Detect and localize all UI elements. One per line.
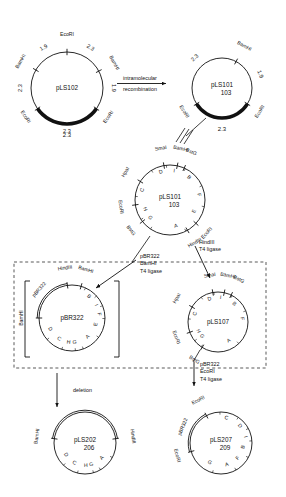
fragment-letter: A (173, 222, 178, 229)
arc-size-label: 1.9 (39, 43, 49, 52)
restriction-site-label: BstG (233, 274, 246, 284)
plasmid-pLS202-206: BamHIHindIIIDCHGApLS202206 (32, 410, 137, 474)
fragment-letter: I (220, 294, 222, 300)
fragment-boundary-tick (184, 169, 185, 171)
step-pbr322-ecori-ligation-line: EcoRI (200, 368, 215, 374)
fragment-letter: B (186, 174, 193, 181)
restriction-site-label: BamHI (14, 53, 27, 69)
restriction-site-tick (186, 228, 189, 234)
plasmid-name: pLS102 (56, 84, 78, 92)
plasmid-subname: 209 (220, 444, 231, 451)
fragment-boundary-tick (93, 470, 94, 472)
fragment-letter: F (234, 455, 241, 461)
fragment-boundary-tick (95, 296, 97, 298)
step-arrow-bamhi-ligation (96, 260, 136, 288)
restriction-site-tick (235, 59, 238, 65)
step-hindiii-ligation: HindIIIT4 ligase (199, 239, 221, 252)
plasmid-subname: 103 (169, 201, 180, 208)
fragment-boundary-tick (151, 170, 152, 172)
restriction-site-label: EcoRI (253, 104, 265, 119)
fragment-letter: D (47, 326, 54, 332)
vector-backbone-arc (188, 414, 205, 452)
fragment-boundary-tick (82, 347, 83, 349)
fragment-letter: G (199, 333, 206, 340)
plasmid-pLS102: 2.3EcoRIBamHIEcoRIEcoRIBamHI1.92.32.31.9… (14, 31, 121, 138)
restriction-site-tick (140, 220, 145, 224)
fragment-letter: I (243, 435, 249, 438)
step-hindiii-ligation-line: HindIII (199, 239, 215, 245)
plasmid-name: pLS101 (211, 81, 233, 89)
restriction-site-label: BamHI (32, 428, 40, 444)
arc-size-label: 1.9 (256, 69, 264, 78)
restriction-site-label: EcoRI (102, 109, 115, 124)
restriction-site-label: BamHI (78, 264, 95, 274)
fragment-letter: B (231, 300, 238, 307)
fragment-letter: G (207, 458, 214, 465)
plasmid-pLS207-209: pBR322EcoRIEcoRICDIBFAGpLS207209 (173, 394, 252, 474)
plasmid-construction-figure: 2.3EcoRIBamHIEcoRIEcoRIBamHI1.92.32.31.9… (0, 0, 286, 497)
fragment-letter: G (72, 339, 77, 345)
equivalence-marker (176, 128, 193, 144)
step-pbr322-bamhi-ligation: pBR322BamHIT4 ligase (140, 253, 162, 274)
fragment-boundary-tick (246, 456, 248, 457)
restriction-site-tick (189, 305, 195, 308)
restriction-site-label: HindIII (57, 264, 72, 272)
fragment-letter: A (225, 336, 231, 343)
restriction-site-label: BamHI (236, 39, 253, 52)
fragment-letter: C (138, 187, 145, 193)
plasmid-name: pLS107 (207, 318, 229, 326)
restriction-site-tick (212, 289, 213, 295)
arc-size-label: 2.3 (17, 84, 23, 92)
restriction-site-tick (163, 162, 164, 168)
arc-size-label: 2.3 (190, 53, 200, 63)
fragment-letter: D (63, 451, 70, 458)
step-intramolecular-recombination-bottom-line: recombination (123, 86, 157, 92)
vector-backbone-label: pBR322 (176, 417, 189, 436)
fragment-boundary-tick (195, 339, 197, 341)
homology-arc-size: 2.3 (218, 126, 227, 132)
figure-canvas: 2.3EcoRIBamHIEcoRIEcoRIBamHI1.92.32.31.9… (0, 0, 286, 497)
restriction-site-tick (67, 282, 68, 288)
step-pbr322-bamhi-ligation-line: pBR322 (140, 253, 159, 259)
fragment-letter: D (207, 295, 213, 302)
plasmid-circle (135, 165, 205, 235)
fragment-letter: F (240, 317, 246, 321)
vector-backbone-label: pBR322 (31, 280, 48, 298)
fragment-boundary-tick (235, 468, 236, 470)
fragment-boundary-tick (78, 471, 79, 474)
step-deletion: deletion (73, 387, 92, 393)
double-strand-arc (53, 410, 118, 438)
fragment-boundary-tick (100, 306, 102, 307)
restriction-site-label: HpaI (120, 166, 131, 178)
restriction-site-label: EcoRI (20, 109, 33, 124)
restriction-site-label: BamHI (108, 54, 121, 71)
fragment-boundary-tick (99, 468, 100, 470)
plasmid-pBR322-insert: pBR322HindIIIBamHIBamHIBIFEAGHCDpBR322 (18, 264, 105, 351)
fragment-boundary-tick (246, 428, 248, 429)
fragment-letter: D (158, 168, 164, 175)
restriction-site-tick (138, 180, 143, 183)
fragment-letter: E (190, 208, 197, 214)
restriction-site-label: EcoRI (200, 226, 214, 240)
fragment-letter: H (142, 206, 149, 212)
arc-size-label: 1.9 (111, 84, 117, 92)
fragment-letter: B (86, 293, 93, 300)
fragment-boundary-tick (212, 470, 213, 472)
fragment-letter: G (147, 214, 154, 221)
fragment-letter: F (196, 193, 202, 197)
restriction-site-tick (113, 438, 119, 439)
fragment-letter: A (84, 333, 91, 340)
plasmid-name: pLS202 (74, 436, 96, 444)
arc-size-label: 2.3 (86, 43, 96, 52)
restriction-site-label: BamHI (18, 310, 24, 326)
fragment-boundary-tick (201, 297, 202, 299)
plasmid-subname: 206 (84, 444, 95, 451)
step-pbr322-ecori-ligation: pBR322EcoRIT4 ligase (200, 361, 222, 382)
fragment-boundary-tick (237, 417, 238, 419)
restriction-site-tick (96, 70, 102, 73)
step-hindiii-ligation-line: T4 ligase (199, 246, 221, 252)
fragment-boundary-tick (110, 456, 112, 457)
fragment-letter: D (237, 422, 244, 429)
fragment-letter: E (92, 321, 99, 326)
fragment-boundary-tick (141, 218, 143, 219)
